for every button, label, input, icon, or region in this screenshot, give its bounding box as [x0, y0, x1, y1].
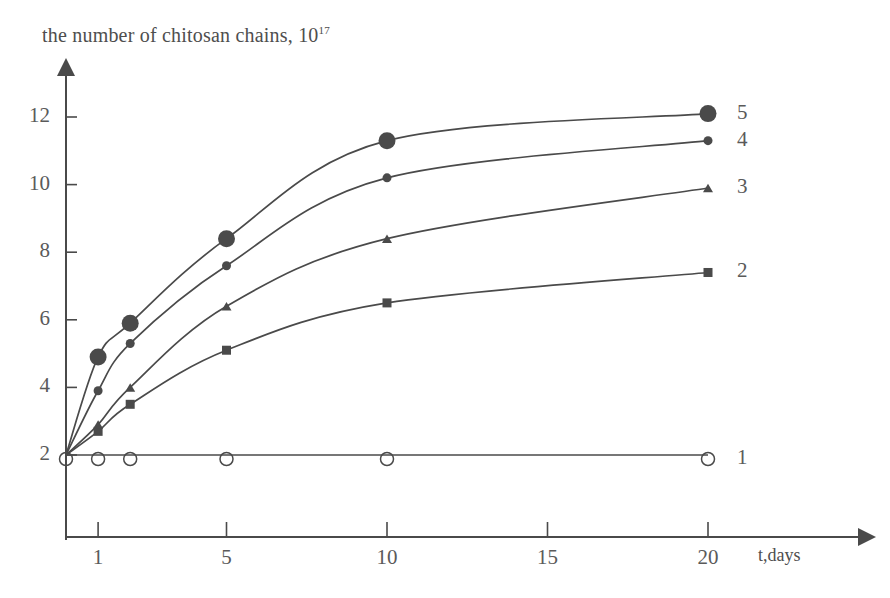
- chart-figure: the number of chitosan chains, 1017 2468…: [0, 0, 890, 598]
- curve-3: [66, 188, 708, 455]
- data-point-4: [383, 173, 392, 182]
- curve-label-3: 3: [737, 174, 748, 199]
- chart-markers: [60, 105, 717, 465]
- y-tick-label-6: 6: [10, 306, 50, 331]
- y-tick-label-12: 12: [10, 103, 50, 128]
- data-point-5: [700, 105, 717, 122]
- y-tick-label-2: 2: [10, 441, 50, 466]
- curve-4: [66, 141, 708, 455]
- data-point-4: [222, 261, 231, 270]
- y-tick-label-10: 10: [10, 171, 50, 196]
- y-tick-label-4: 4: [10, 373, 50, 398]
- chart-curves: [66, 114, 708, 455]
- data-point-4: [126, 339, 135, 348]
- x-axis-name: t,days: [758, 545, 801, 566]
- x-tick-label-5: 5: [207, 545, 247, 570]
- x-tick-label-1: 1: [78, 545, 118, 570]
- data-point-2: [126, 400, 135, 409]
- data-point-2: [383, 298, 392, 307]
- x-tick-label-15: 15: [528, 545, 568, 570]
- curve-5: [66, 114, 708, 455]
- curve-label-1: 1: [737, 445, 748, 470]
- plot-area: [0, 0, 890, 598]
- curve-label-4: 4: [737, 127, 748, 152]
- data-point-5: [218, 230, 235, 247]
- curve-label-5: 5: [737, 100, 748, 125]
- data-point-2: [222, 346, 231, 355]
- curve-label-2: 2: [737, 258, 748, 283]
- data-point-5: [379, 132, 396, 149]
- data-point-2: [704, 268, 713, 277]
- data-point-5: [122, 315, 139, 332]
- x-tick-label-20: 20: [688, 545, 728, 570]
- data-point-4: [704, 136, 713, 145]
- y-tick-label-8: 8: [10, 238, 50, 263]
- data-point-5: [90, 348, 107, 365]
- x-tick-label-10: 10: [367, 545, 407, 570]
- data-point-4: [94, 386, 103, 395]
